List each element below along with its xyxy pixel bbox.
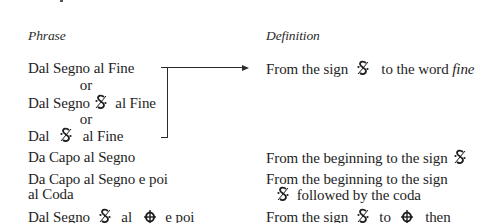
definition-text: followed by the coda bbox=[297, 187, 421, 203]
phrase-column-header: Phrase bbox=[28, 27, 66, 44]
bracket-bottom-tick bbox=[161, 137, 168, 138]
phrase-text: Dal Segno bbox=[28, 95, 90, 111]
segno-icon bbox=[276, 186, 290, 202]
definition-sign-to-fine: From the sign to the word fine bbox=[266, 60, 474, 78]
definition-text: to the word bbox=[381, 61, 448, 77]
segno-icon bbox=[453, 149, 467, 165]
phrase-dal-segno-al-fine: Dal Segno al Fine bbox=[28, 60, 134, 77]
definition-emphasis-fine: fine bbox=[452, 61, 474, 77]
phrase-text: al Fine bbox=[83, 128, 124, 144]
definition-text: From the sign bbox=[266, 61, 348, 77]
phrase-text: e poi bbox=[165, 209, 194, 223]
coda-icon bbox=[144, 210, 156, 223]
phrase-text: Dal Segno al Fine bbox=[28, 60, 134, 76]
phrase-text: al bbox=[121, 209, 132, 223]
definition-sign-to-coda-then: From the sign to then bbox=[266, 208, 451, 223]
phrase-dal-segno-al-coda-e-poi: Dal Segno al e poi bbox=[28, 208, 194, 223]
arrow-right-icon bbox=[242, 65, 249, 71]
cropped-text-fragment bbox=[60, 0, 63, 2]
segno-icon bbox=[98, 208, 112, 223]
phrase-text: al Fine bbox=[115, 95, 156, 111]
definition-beginning-to-sign: From the beginning to the sign bbox=[266, 149, 467, 167]
definition-followed-by-coda: followed by the coda bbox=[276, 186, 421, 204]
phrase-dal-segno-sign-al-fine: Dal Segno al Fine bbox=[28, 94, 156, 112]
phrase-da-capo-al-segno: Da Capo al Segno bbox=[28, 149, 135, 166]
segno-icon bbox=[94, 94, 108, 110]
phrase-dal-sign-al-fine: Dal al Fine bbox=[28, 127, 123, 145]
arrow-shaft bbox=[167, 67, 243, 68]
segno-icon bbox=[356, 60, 370, 76]
definition-text: then bbox=[425, 209, 450, 223]
segno-icon bbox=[356, 208, 370, 223]
segno-icon bbox=[59, 127, 73, 143]
phrase-text: Dal bbox=[28, 128, 49, 144]
phrase-al-coda: al Coda bbox=[28, 186, 74, 203]
or-connector-2: or bbox=[56, 111, 116, 128]
phrase-text: Dal Segno bbox=[28, 209, 90, 223]
bracket-vertical-line bbox=[167, 67, 168, 138]
definition-text: From the beginning to the sign bbox=[266, 150, 448, 166]
definition-text: to bbox=[379, 209, 390, 223]
or-connector-1: or bbox=[56, 77, 116, 94]
definition-text: From the sign bbox=[266, 209, 348, 223]
definition-column-header: Definition bbox=[266, 27, 320, 44]
coda-icon bbox=[401, 210, 413, 223]
